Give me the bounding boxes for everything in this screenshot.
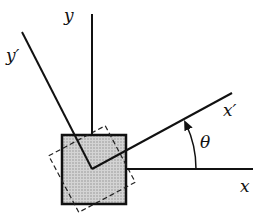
- rotation-diagram: y y′ x′ x θ: [0, 0, 264, 218]
- stress-element: [62, 135, 126, 204]
- y-prime-axis-label: y′: [5, 45, 20, 65]
- x-prime-axis: [92, 93, 232, 169]
- y-prime-axis: [22, 32, 92, 169]
- x-prime-axis-label: x′: [223, 100, 237, 120]
- x-axis-label: x: [240, 176, 250, 196]
- y-axis-label: y: [63, 5, 74, 25]
- theta-label: θ: [200, 132, 210, 152]
- theta-arc: [186, 124, 196, 169]
